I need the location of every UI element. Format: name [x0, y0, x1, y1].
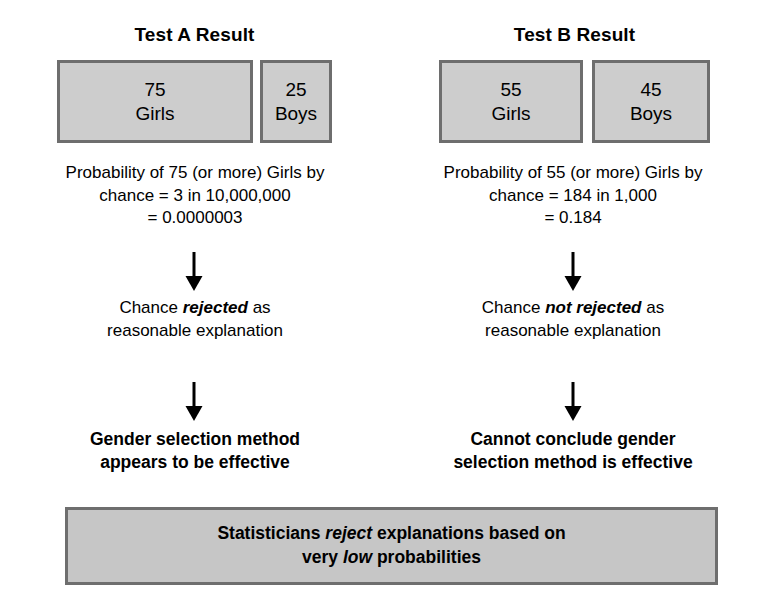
result-label: Boys	[630, 102, 672, 125]
verdict-text-test-a: Chance rejected as reasonable explanatio…	[30, 297, 360, 342]
summary-text: Statisticians reject explanations based …	[217, 522, 565, 569]
verdict-text-test-b: Chance not rejected as reasonable explan…	[405, 297, 741, 342]
column-title-test-b: Test B Result	[439, 24, 710, 46]
down-arrow-icon	[181, 382, 207, 422]
summary-emphasis-low: low	[343, 547, 372, 567]
conclusion-text-test-b: Cannot conclude gender selection method …	[405, 428, 741, 474]
result-count: 45	[640, 78, 661, 101]
summary-emphasis-reject: reject	[325, 523, 372, 543]
result-count: 75	[144, 78, 165, 101]
probability-text-test-a: Probability of 75 (or more) Girls by cha…	[30, 162, 360, 230]
result-label: Boys	[275, 102, 317, 125]
down-arrow-icon	[560, 252, 586, 292]
result-box-test-a-boys: 25 Boys	[260, 60, 332, 143]
result-box-test-b-girls: 55 Girls	[439, 60, 583, 143]
flowchart-diagram: Test A Result Test B Result 75 Girls 25 …	[0, 0, 769, 611]
summary-part-1: Statisticians	[217, 523, 325, 543]
result-label: Girls	[491, 102, 530, 125]
verdict-prefix: Chance	[119, 298, 182, 317]
conclusion-text-test-a: Gender selection method appears to be ef…	[30, 428, 360, 474]
column-title-test-a: Test A Result	[57, 24, 332, 46]
result-count: 55	[500, 78, 521, 101]
verdict-emphasis: rejected	[183, 298, 248, 317]
result-box-test-a-girls: 75 Girls	[57, 60, 253, 143]
result-box-test-b-boys: 45 Boys	[592, 60, 710, 143]
down-arrow-icon	[181, 252, 207, 292]
summary-part-3: probabilities	[372, 547, 481, 567]
result-count: 25	[285, 78, 306, 101]
verdict-prefix: Chance	[482, 298, 545, 317]
verdict-emphasis: not rejected	[545, 298, 641, 317]
summary-banner: Statisticians reject explanations based …	[65, 507, 718, 585]
result-label: Girls	[135, 102, 174, 125]
down-arrow-icon	[560, 382, 586, 422]
probability-text-test-b: Probability of 55 (or more) Girls by cha…	[405, 162, 741, 230]
